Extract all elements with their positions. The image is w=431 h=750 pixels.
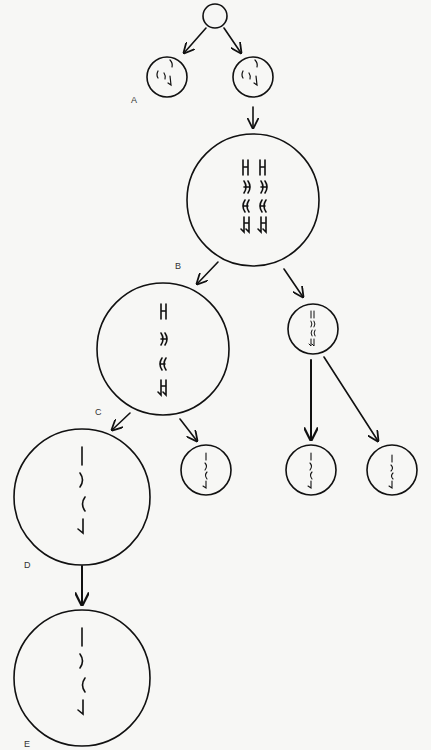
chromosomes-polar-2b: [389, 455, 393, 488]
arrow-origin-to-A-left: [184, 28, 206, 53]
arrow-B-to-polar: [284, 269, 303, 297]
arrow-B-to-C: [197, 262, 218, 284]
diagram-canvas: [0, 0, 431, 750]
label-B: B: [175, 262, 181, 271]
chromosomes-C: [158, 304, 167, 395]
arrow-C-to-D: [112, 413, 130, 430]
cell-A-right: [233, 57, 273, 97]
cell-origin: [203, 4, 227, 28]
cell-C: [97, 283, 229, 415]
chromosomes-D: [78, 447, 85, 533]
label-E: E: [24, 740, 30, 749]
label-D: D: [24, 561, 31, 570]
chromosomes-B: [241, 160, 267, 232]
chromosomes-E: [78, 628, 85, 714]
arrow-C-to-polar: [180, 419, 197, 441]
chromosomes-C-polar: [203, 453, 207, 488]
cell-B-polar: [288, 304, 338, 354]
chromosomes-B-polar: [309, 311, 315, 346]
arrow-origin-to-A-right: [224, 28, 241, 53]
cell-A-left: [147, 57, 187, 97]
label-C: C: [95, 408, 102, 417]
cell-division-diagram: A B C D E: [0, 0, 431, 750]
arrow-polar-to-2b: [324, 357, 378, 441]
cell-B: [187, 134, 319, 266]
label-A: A: [131, 96, 137, 105]
chromosomes-polar-2a: [308, 453, 312, 488]
chromosomes-A-right: [242, 60, 257, 85]
chromosomes-A-left: [157, 60, 172, 85]
